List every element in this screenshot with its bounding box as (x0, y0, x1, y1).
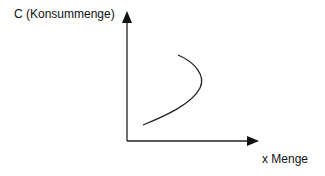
y-axis-arrow-icon (122, 11, 132, 23)
curve (143, 55, 202, 125)
x-axis-arrow-icon (247, 136, 259, 146)
diagram-canvas (0, 0, 325, 176)
